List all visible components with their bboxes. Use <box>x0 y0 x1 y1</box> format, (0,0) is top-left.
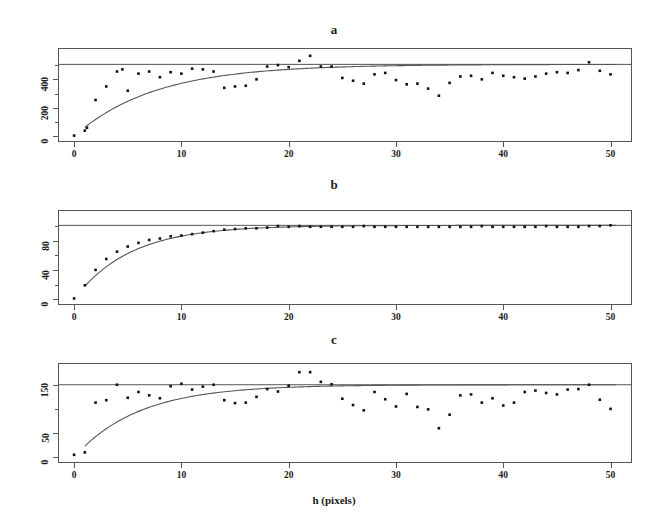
y-tick <box>53 299 58 300</box>
data-point <box>234 228 237 231</box>
x-tick <box>289 142 290 147</box>
y-tick <box>53 457 58 458</box>
data-point <box>320 381 323 384</box>
x-tick <box>503 463 504 468</box>
data-point <box>556 226 559 229</box>
data-point <box>191 388 194 391</box>
data-point <box>330 383 333 386</box>
data-point <box>277 390 280 393</box>
x-tick <box>181 142 182 147</box>
panel-a-x-axis: 01020304050 <box>58 142 632 168</box>
data-point <box>491 226 494 229</box>
data-point <box>470 226 473 229</box>
data-point <box>244 84 247 87</box>
x-tick-label: 50 <box>606 312 616 322</box>
data-point <box>116 250 119 253</box>
y-tick-minor <box>55 65 58 66</box>
x-tick-label: 30 <box>391 312 401 322</box>
data-point <box>523 226 526 229</box>
data-point <box>202 385 205 388</box>
data-point <box>191 233 194 236</box>
panel-b-title: b <box>0 177 668 193</box>
data-point <box>556 71 559 74</box>
data-point <box>416 226 419 229</box>
data-point <box>523 77 526 80</box>
panel-a-y-axis: 0200400 <box>46 48 58 142</box>
data-point <box>84 451 87 454</box>
data-point <box>459 226 462 229</box>
data-point <box>341 397 344 400</box>
panel-c-data-layer <box>58 363 632 463</box>
y-tick <box>53 433 58 434</box>
x-tick-label: 0 <box>72 470 77 480</box>
data-point <box>212 383 215 386</box>
panel-a-title: a <box>0 22 668 38</box>
data-point <box>73 453 76 456</box>
data-point <box>405 393 408 396</box>
data-point <box>566 226 569 229</box>
x-tick <box>611 305 612 310</box>
data-point <box>169 235 172 238</box>
data-point <box>148 70 151 73</box>
data-point <box>73 297 76 300</box>
data-point <box>121 68 124 71</box>
data-point <box>502 74 505 77</box>
panel-a: a 0200400 01020304050 <box>0 22 668 177</box>
x-tick <box>503 305 504 310</box>
data-point <box>137 242 140 245</box>
data-point <box>480 78 483 81</box>
data-point <box>169 71 172 74</box>
data-point <box>266 65 269 68</box>
panel-b-y-axis: 04080 <box>46 210 58 305</box>
data-point <box>94 269 97 272</box>
panel-c-title: c <box>0 332 668 348</box>
data-point <box>438 226 441 229</box>
data-point <box>480 225 483 228</box>
data-point <box>212 230 215 233</box>
data-point <box>491 397 494 400</box>
x-tick-label: 40 <box>499 470 509 480</box>
data-point <box>126 89 129 92</box>
data-point <box>159 237 162 240</box>
data-point <box>84 129 87 132</box>
data-point <box>534 389 537 392</box>
data-point <box>373 73 376 76</box>
data-point <box>116 70 119 73</box>
data-point <box>448 226 451 229</box>
data-point <box>523 391 526 394</box>
data-point <box>202 68 205 71</box>
x-tick <box>74 142 75 147</box>
data-point <box>405 226 408 229</box>
x-tick-label: 10 <box>177 470 187 480</box>
data-point <box>438 94 441 97</box>
y-tick-label: 200 <box>40 106 50 120</box>
data-point <box>534 226 537 229</box>
data-point <box>609 408 612 411</box>
x-tick-label: 0 <box>72 149 77 159</box>
data-point <box>287 66 290 69</box>
data-point <box>126 245 129 248</box>
y-tick <box>53 241 58 242</box>
data-point <box>137 72 140 75</box>
panel-c-y-axis: 050150 <box>46 363 58 463</box>
panel-b-data-layer <box>58 210 632 305</box>
data-point <box>244 227 247 230</box>
data-point <box>84 284 87 287</box>
y-tick-minor <box>55 94 58 95</box>
data-point <box>352 404 355 407</box>
x-tick-label: 50 <box>606 149 616 159</box>
data-point <box>609 73 612 76</box>
panel-b-x-axis: 01020304050 <box>58 305 632 331</box>
data-point <box>352 226 355 229</box>
data-point <box>309 55 312 58</box>
data-point <box>405 83 408 86</box>
y-tick <box>53 108 58 109</box>
data-point <box>212 70 215 73</box>
data-point <box>459 75 462 78</box>
y-tick-label: 0 <box>40 139 50 144</box>
model-curve <box>85 64 616 127</box>
data-point <box>330 226 333 229</box>
y-tick-minor <box>55 122 58 123</box>
x-tick-label: 20 <box>284 470 294 480</box>
data-point <box>277 64 280 67</box>
